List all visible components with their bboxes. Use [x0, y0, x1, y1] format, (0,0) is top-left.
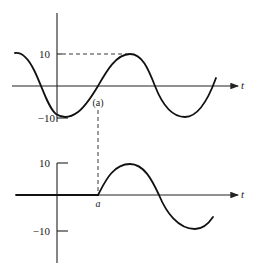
- bottom-start-label-a: a: [96, 198, 101, 209]
- bottom-y-label-10: 10: [39, 157, 51, 169]
- top-sinusoid-curve: [15, 53, 216, 117]
- bottom-sinusoid-curve: [98, 164, 213, 229]
- sinusoid-diagram: 10 −10 t (a) 10 −10 t a: [0, 0, 256, 277]
- top-x-label-t: t: [241, 79, 245, 91]
- bottom-x-label-t: t: [241, 188, 245, 200]
- top-y-label-minus10: −10: [38, 112, 56, 124]
- top-y-label-10: 10: [39, 48, 51, 60]
- bottom-y-label-minus10: −10: [33, 225, 51, 237]
- top-crossing-label: (a): [92, 97, 103, 109]
- bottom-plot: 10 −10 t a: [16, 157, 245, 263]
- top-plot: 10 −10 t (a): [12, 13, 245, 124]
